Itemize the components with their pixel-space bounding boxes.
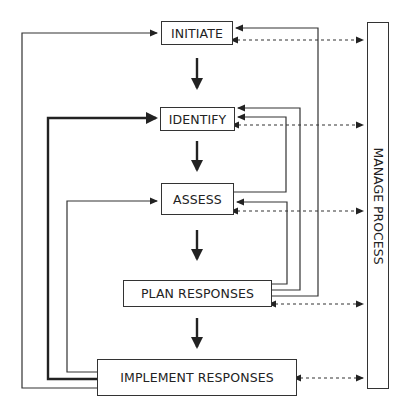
node-assess: ASSESS (161, 183, 234, 215)
node-label: ASSESS (173, 192, 222, 207)
node-plan-responses: PLAN RESPONSES (123, 280, 272, 307)
node-manage-process: MANAGE PROCESS (367, 22, 389, 389)
risk-process-diagram: INITIATE IDENTIFY ASSESS PLAN RESPONSES … (0, 0, 409, 412)
node-label: IDENTIFY (169, 112, 227, 127)
node-implement-responses: IMPLEMENT RESPONSES (97, 359, 297, 396)
feedback-lines-left (22, 33, 157, 388)
feedback-lines-right (233, 28, 318, 296)
node-identify: IDENTIFY (160, 107, 235, 131)
node-initiate: INITIATE (161, 21, 233, 45)
node-label: IMPLEMENT RESPONSES (120, 370, 273, 385)
node-label: INITIATE (171, 26, 223, 41)
node-label: PLAN RESPONSES (141, 286, 254, 301)
node-label: MANAGE PROCESS (371, 147, 386, 264)
